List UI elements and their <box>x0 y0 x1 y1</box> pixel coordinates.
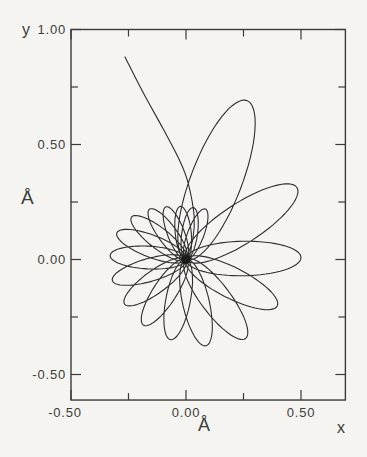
y-axis-unit-angstrom: Å <box>21 187 34 209</box>
x-tick-label: 0.00 <box>172 405 201 420</box>
y-tick-label: 0.50 <box>37 137 66 152</box>
y-tick-label: -0.50 <box>32 367 66 382</box>
x-tick-label: 0.50 <box>287 405 316 420</box>
y-tick-label: 0.00 <box>37 252 66 267</box>
trajectory-plot: 1.000.500.00-0.50-0.500.000.50 <box>0 0 367 457</box>
x-axis-label: x <box>337 419 346 437</box>
rosette-center-knot <box>181 255 190 264</box>
trajectory-path <box>110 57 301 346</box>
x-axis-unit-angstrom: Å <box>198 415 210 436</box>
figure-page: 1.000.500.00-0.50-0.500.000.50 y Å Å x <box>0 0 367 457</box>
y-tick-label: 1.00 <box>37 22 66 37</box>
x-tick-label: -0.50 <box>48 405 82 420</box>
y-axis-label: y <box>22 21 31 39</box>
